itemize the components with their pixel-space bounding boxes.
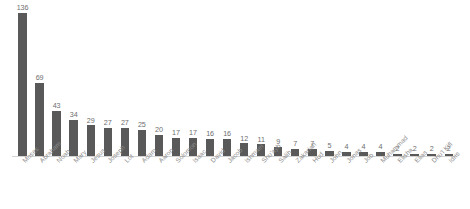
bar-item[interactable]: 2: [423, 2, 440, 156]
x-tick-cell: Job: [355, 157, 372, 209]
x-tick-cell: Jesus: [82, 157, 99, 209]
x-tick-cell: Elias: [406, 157, 423, 209]
bar-value-label: 4: [379, 143, 383, 150]
bar-value-label: 29: [87, 117, 95, 124]
x-tick-cell: Noah: [48, 157, 65, 209]
x-tick-cell: Jacob: [219, 157, 236, 209]
bar-rect[interactable]: [69, 120, 77, 156]
bar-value-label: 7: [293, 140, 297, 147]
x-tick-cell: Jonas: [338, 157, 355, 209]
bar-value-label: 17: [172, 129, 180, 136]
bar-value-label: 69: [36, 74, 44, 81]
bar-value-label: 16: [223, 130, 231, 137]
bar-item[interactable]: 27: [116, 2, 133, 156]
bar-item[interactable]: 7: [287, 2, 304, 156]
bar-item[interactable]: 11: [253, 2, 270, 156]
x-tick-cell: Elisha: [389, 157, 406, 209]
chart-screenshot: 1366943342927272520171716161211977544422…: [0, 0, 470, 209]
bar-item[interactable]: 17: [167, 2, 184, 156]
bar-value-label: 4: [344, 143, 348, 150]
x-tick-cell: Mary: [65, 157, 82, 209]
x-tick-cell: Zakariah: [287, 157, 304, 209]
x-tick-cell: Aaron: [150, 157, 167, 209]
bar-rect[interactable]: [35, 83, 43, 156]
bar-value-label: 43: [53, 102, 61, 109]
bar-series: 1366943342927272520171716161211977544422…: [14, 2, 458, 156]
x-tick-cell: Abraham: [31, 157, 48, 209]
x-tick-cell: Idris: [440, 157, 457, 209]
bar-rect[interactable]: [18, 13, 26, 157]
bar-value-label: 5: [327, 142, 331, 149]
bar-item[interactable]: 5: [321, 2, 338, 156]
bar-value-label: 2: [430, 145, 434, 152]
x-tick-cell: Moses: [14, 157, 31, 209]
x-axis-tick-labels: MosesAbrahamNoahMaryJesusJosephLotAdamAa…: [14, 157, 458, 209]
x-tick-cell: Hud: [304, 157, 321, 209]
bar-item[interactable]: 27: [99, 2, 116, 156]
bar-item[interactable]: 4: [372, 2, 389, 156]
bar-item[interactable]: 34: [65, 2, 82, 156]
bar-item[interactable]: 16: [202, 2, 219, 156]
x-tick-cell: Isaac: [184, 157, 201, 209]
bar-value-label: 34: [70, 111, 78, 118]
bar-value-label: 16: [206, 130, 214, 137]
bar-value-label: 27: [121, 119, 129, 126]
bar-value-label: 136: [17, 4, 29, 11]
x-tick-cell: Muhammad: [372, 157, 389, 209]
x-tick-cell: Salih: [270, 157, 287, 209]
bar-rect[interactable]: [138, 130, 146, 156]
bar-value-label: 17: [189, 129, 197, 136]
bar-item[interactable]: 43: [48, 2, 65, 156]
bar-item[interactable]: 20: [150, 2, 167, 156]
bar-item[interactable]: 12: [236, 2, 253, 156]
bar-item[interactable]: 2: [406, 2, 423, 156]
bar-rect[interactable]: [87, 125, 95, 156]
x-tick-cell: Joseph: [99, 157, 116, 209]
x-tick-cell: David: [202, 157, 219, 209]
bar-value-label: 25: [138, 121, 146, 128]
x-tick-cell: John: [321, 157, 338, 209]
bar-item[interactable]: 29: [82, 2, 99, 156]
bar-item[interactable]: 136: [14, 2, 31, 156]
bar-item[interactable]: 7: [304, 2, 321, 156]
bar-item[interactable]: 16: [219, 2, 236, 156]
bar-item[interactable]: 9: [270, 2, 287, 156]
bar-chart-plot-area: 1366943342927272520171716161211977544422…: [14, 2, 458, 156]
x-tick-cell: Ishmael: [236, 157, 253, 209]
x-tick-cell: Dhu'l Kifl: [423, 157, 440, 209]
x-tick-cell: Lot: [116, 157, 133, 209]
bar-item[interactable]: 4: [355, 2, 372, 156]
bar-item[interactable]: 69: [31, 2, 48, 156]
x-tick-cell: Adam: [133, 157, 150, 209]
x-tick-cell: Solomon: [167, 157, 184, 209]
x-tick-cell: Shu'ayb: [253, 157, 270, 209]
bar-item[interactable]: 25: [133, 2, 150, 156]
bar-value-label: 20: [155, 126, 163, 133]
bar-value-label: 27: [104, 119, 112, 126]
bar-item[interactable]: 2: [440, 2, 457, 156]
bar-value-label: 12: [240, 135, 248, 142]
bar-value-label: 4: [362, 143, 366, 150]
bar-item[interactable]: 17: [184, 2, 201, 156]
bar-item[interactable]: 4: [338, 2, 355, 156]
